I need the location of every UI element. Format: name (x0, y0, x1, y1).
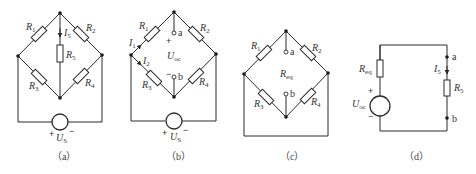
label-r3: R3 (141, 79, 152, 92)
label-b: b (178, 71, 183, 82)
label-r2: R2 (85, 22, 96, 35)
label-r5: R5 (65, 49, 76, 62)
label-us: US (170, 131, 181, 144)
caption-a: （a） (52, 151, 76, 162)
source-plus-sign: + (368, 86, 373, 96)
figure-c: R1 R2 R3 R4 a b Req （c） (242, 29, 330, 162)
voltage-source-us (166, 113, 182, 129)
label-b: b (452, 113, 457, 124)
circuit-diagram-set: R1 R2 R3 R4 R5 I5 + − US （a） (0, 0, 476, 174)
terminal-a (445, 55, 449, 59)
figure-b: R1 R2 R3 R4 I1 I2 a b + − Uoc + − US （b） (128, 10, 218, 162)
label-i5: I5 (63, 27, 71, 40)
terminal-b (445, 116, 449, 120)
resistor-r5 (444, 80, 450, 96)
label-r4: R4 (310, 96, 321, 109)
label-r5: R5 (453, 82, 464, 95)
label-a: a (452, 51, 457, 62)
caption-b: （b） (166, 151, 191, 162)
current-arrow-i2 (136, 60, 141, 65)
label-req: Req (358, 63, 372, 76)
terminal-b (284, 92, 288, 96)
voltage-source-us (52, 114, 68, 130)
label-r4: R4 (84, 77, 95, 90)
label-r3: R3 (253, 98, 264, 111)
label-uoc: Uoc (167, 50, 181, 63)
label-r1: R1 (250, 40, 261, 53)
resistor-req (377, 60, 383, 77)
label-i1: I1 (128, 37, 136, 50)
caption-c: （c） (280, 151, 304, 162)
label-us: US (56, 132, 67, 145)
label-r1: R1 (138, 20, 149, 33)
source-minus-sign: − (69, 126, 74, 136)
source-minus-sign: − (368, 111, 373, 121)
source-plus-sign: + (162, 128, 167, 138)
label-i5: I5 (433, 63, 441, 76)
label-i2: I2 (142, 55, 150, 68)
figure-a: R1 R2 R3 R4 R5 I5 + − US （a） (16, 11, 104, 162)
label-a: a (290, 46, 295, 57)
terminal-a (284, 50, 288, 54)
label-r3: R3 (28, 80, 39, 93)
figure-d: Req Uoc + − I5 R5 a b （d） (352, 45, 464, 162)
source-minus-sign: − (183, 125, 188, 135)
label-r1: R1 (25, 21, 36, 34)
source-plus-sign: + (49, 129, 54, 139)
label-b: b (290, 88, 295, 99)
resistor-r5 (57, 45, 63, 62)
label-a: a (178, 27, 183, 38)
terminal-a (172, 31, 176, 35)
terminal-b (172, 75, 176, 79)
label-uoc: Uoc (352, 98, 366, 111)
label-req: Req (279, 68, 293, 81)
caption-d: （d） (404, 151, 429, 162)
label-r2: R2 (199, 22, 210, 35)
current-arrow-i1 (136, 45, 141, 50)
uoc-minus-sign: − (166, 69, 171, 79)
label-r4: R4 (198, 76, 209, 89)
uoc-plus-sign: + (166, 36, 171, 46)
